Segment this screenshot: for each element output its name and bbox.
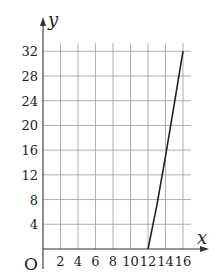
- y-tick-label: 4: [30, 217, 38, 232]
- x-tick-label: 6: [91, 254, 99, 269]
- x-tick-label: 16: [175, 254, 192, 269]
- y-tick-label: 12: [21, 168, 38, 183]
- grid-lines: [43, 43, 191, 249]
- y-axis-label: y: [47, 9, 59, 30]
- y-tick-label: 28: [21, 69, 38, 84]
- x-tick-label: 10: [122, 254, 139, 269]
- origin-label: O: [24, 254, 38, 274]
- x-tick-label: 12: [140, 254, 157, 269]
- x-tick-label: 4: [74, 254, 82, 269]
- y-tick-label: 24: [21, 94, 38, 109]
- y-tick-label: 16: [21, 143, 38, 158]
- x-tick-label: 8: [109, 254, 117, 269]
- axes: [40, 17, 209, 269]
- x-tick-label: 14: [157, 254, 174, 269]
- y-tick-label: 32: [21, 44, 38, 59]
- x-tick-label: 2: [56, 254, 64, 269]
- x-axis-label: x: [197, 227, 207, 248]
- y-axis-arrow-icon: [40, 17, 46, 26]
- chart: 24681012141648121620242832 x y O: [0, 0, 222, 278]
- y-tick-label: 20: [21, 118, 38, 133]
- y-tick-label: 8: [30, 193, 38, 208]
